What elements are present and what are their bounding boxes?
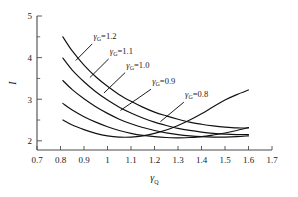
chart-background [0, 0, 298, 197]
x-tick-label: 1.2 [149, 155, 160, 165]
x-tick-label: 0.9 [78, 155, 90, 165]
y-tick-label: 5 [28, 11, 33, 21]
y-tick-label: 4 [28, 53, 33, 63]
chart-figure: 0.70.80.911.11.21.31.41.51.61.72345 γG=1… [0, 0, 298, 197]
x-tick-label: 0.8 [55, 155, 67, 165]
x-tick-label: 1.6 [243, 155, 255, 165]
x-tick-label: 1 [105, 155, 110, 165]
y-tick-label: 3 [28, 95, 33, 105]
x-tick-label: 1.4 [196, 155, 208, 165]
x-tick-label: 1.3 [172, 155, 184, 165]
y-axis-title: I [7, 81, 18, 86]
x-tick-label: 0.7 [31, 155, 43, 165]
x-tick-label: 1.1 [125, 155, 136, 165]
x-tick-label: 1.7 [266, 155, 278, 165]
line-chart-svg: 0.70.80.911.11.21.31.41.51.61.72345 γG=1… [0, 0, 298, 197]
y-tick-label: 2 [28, 136, 33, 146]
x-tick-label: 1.5 [219, 155, 231, 165]
